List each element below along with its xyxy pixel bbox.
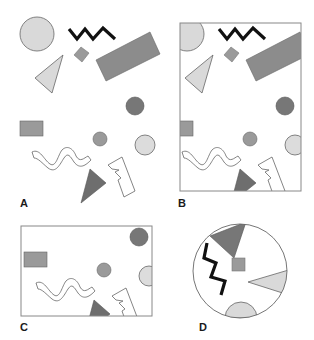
figure-canvas [0,0,314,340]
d-light-semicircle [225,302,257,318]
panel-label-d: D [199,321,207,333]
panel-b-scene [170,17,310,203]
d-black-zigzag [204,243,225,295]
panel-label-b: B [178,197,186,209]
panel-a-scene [20,17,160,203]
panel-d-scene [204,222,292,318]
d-small-square [232,258,245,271]
panel-label-c: C [20,321,28,333]
d-dark-triangle [210,222,246,258]
panel-label-a: A [20,197,28,209]
